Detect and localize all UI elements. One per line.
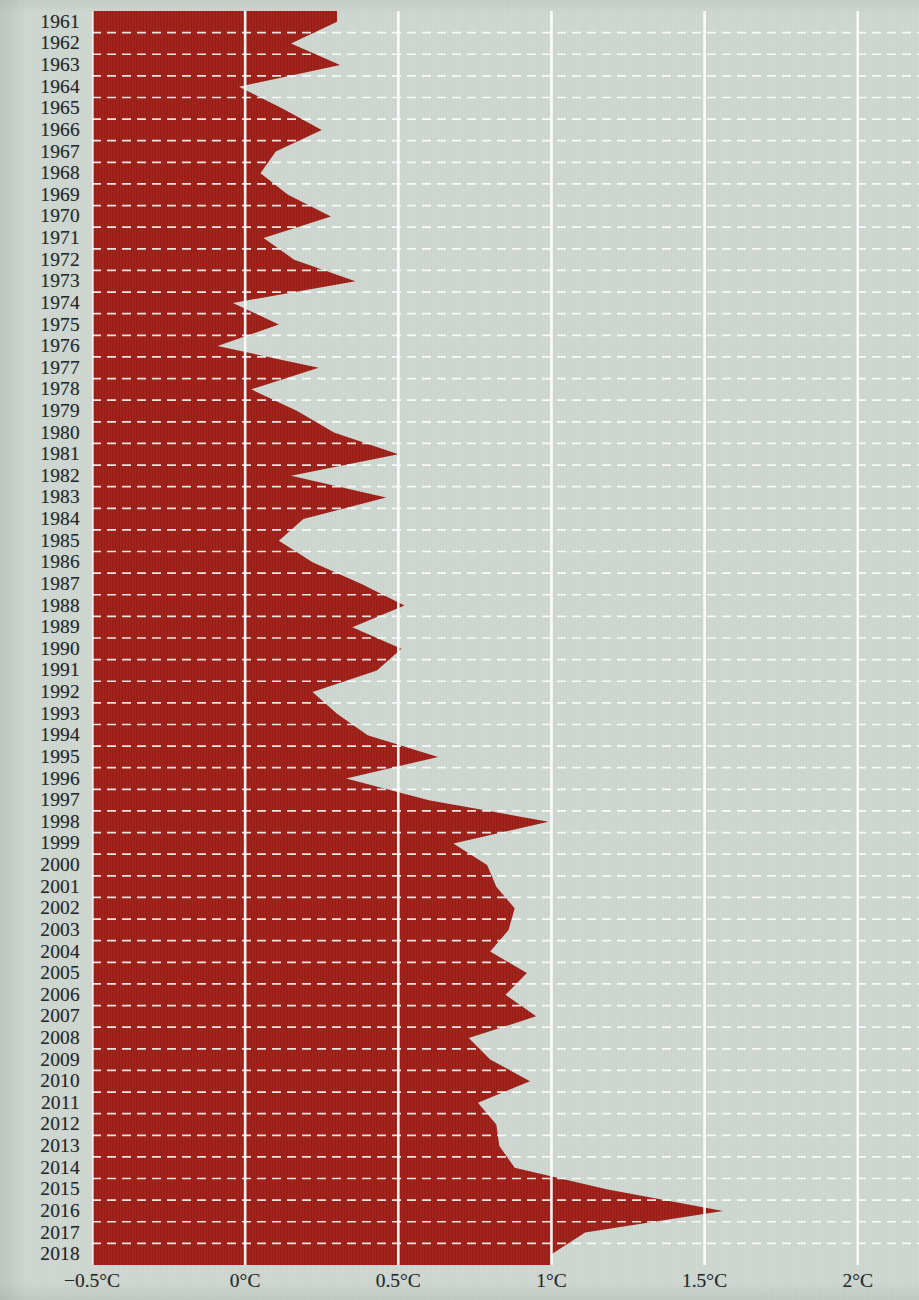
year-label: 1964 [40, 77, 80, 97]
year-label: 1973 [40, 271, 80, 291]
year-label: 1980 [40, 423, 80, 443]
year-label: 1989 [40, 617, 80, 637]
year-label: 1990 [40, 639, 80, 659]
year-label: 1983 [40, 487, 80, 507]
year-label: 2002 [40, 898, 80, 918]
temperature-anomaly-chart: 1961196219631964196519661967196819691970… [0, 0, 919, 1300]
year-label: 1988 [40, 596, 80, 616]
x-tick-label: 1.5°C [682, 1270, 727, 1292]
x-tick-label: 0°C [230, 1270, 261, 1292]
year-label: 1985 [40, 531, 80, 551]
year-label: 1967 [40, 142, 80, 162]
x-tick-label: 1°C [536, 1270, 567, 1292]
year-label: 1993 [40, 704, 80, 724]
year-label: 1997 [40, 790, 80, 810]
year-label: 1961 [40, 12, 80, 32]
year-label: 1998 [40, 812, 80, 832]
year-label: 1995 [40, 747, 80, 767]
year-label: 1975 [40, 315, 80, 335]
year-label: 1974 [40, 293, 80, 313]
year-axis: 1961196219631964196519661967196819691970… [0, 11, 88, 1265]
x-tick-label: −0.5°C [64, 1270, 120, 1292]
year-label: 2006 [40, 985, 80, 1005]
x-tick-label: 0.5°C [376, 1270, 421, 1292]
year-label: 2014 [40, 1158, 80, 1178]
year-label: 1979 [40, 401, 80, 421]
year-label: 1996 [40, 769, 80, 789]
year-label: 1976 [40, 336, 80, 356]
year-label: 1969 [40, 185, 80, 205]
year-label: 1978 [40, 379, 80, 399]
year-label: 1963 [40, 55, 80, 75]
year-label: 2000 [40, 855, 80, 875]
year-label: 1970 [40, 206, 80, 226]
year-label: 1987 [40, 574, 80, 594]
year-label: 2011 [41, 1093, 80, 1113]
x-tick-label: 2°C [842, 1270, 873, 1292]
year-label: 1965 [40, 98, 80, 118]
year-label: 1972 [40, 250, 80, 270]
year-label: 1991 [40, 660, 80, 680]
year-label: 2004 [40, 942, 80, 962]
year-label: 1999 [40, 833, 80, 853]
year-label: 1968 [40, 163, 80, 183]
area-series-svg [92, 11, 919, 1265]
year-label: 1966 [40, 120, 80, 140]
temperature-axis: −0.5°C0°C0.5°C1°C1.5°C2°C [0, 1270, 919, 1300]
year-label: 2016 [40, 1201, 80, 1221]
year-label: 2008 [40, 1028, 80, 1048]
year-label: 2013 [40, 1136, 80, 1156]
year-label: 1981 [40, 444, 80, 464]
year-label: 1971 [40, 228, 80, 248]
year-label: 2010 [40, 1071, 80, 1091]
year-label: 2015 [40, 1179, 80, 1199]
year-label: 1992 [40, 682, 80, 702]
year-label: 2012 [40, 1114, 80, 1134]
plot-area [92, 11, 919, 1265]
year-label: 2007 [40, 1006, 80, 1026]
year-label: 2018 [40, 1244, 80, 1264]
year-label: 2001 [40, 877, 80, 897]
year-label: 2009 [40, 1050, 80, 1070]
year-label: 1986 [40, 552, 80, 572]
year-label: 2017 [40, 1223, 80, 1243]
year-label: 1982 [40, 466, 80, 486]
year-label: 1962 [40, 33, 80, 53]
year-label: 2003 [40, 920, 80, 940]
year-label: 1994 [40, 725, 80, 745]
year-label: 2005 [40, 963, 80, 983]
year-label: 1984 [40, 509, 80, 529]
year-label: 1977 [40, 358, 80, 378]
